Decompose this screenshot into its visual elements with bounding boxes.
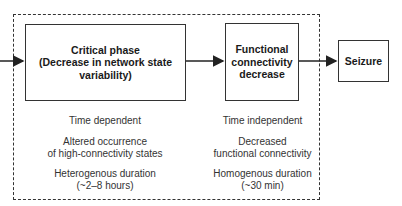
critical-phase-title: Critical phase	[39, 44, 172, 57]
note-text: Altered occurrence	[30, 136, 180, 148]
functional-connectivity-box: Functional connectivity decrease	[225, 23, 299, 101]
note-time-independent: Time independent	[205, 115, 320, 127]
functional-label-2: connectivity	[231, 56, 292, 69]
note-text: of high-connectivity states	[30, 148, 180, 160]
functional-label-1: Functional	[231, 43, 292, 56]
note-text: Homogenous duration	[205, 168, 320, 180]
note-time-dependent: Time dependent	[40, 115, 170, 127]
note-text: (~30 min)	[205, 180, 320, 192]
functional-label-3: decrease	[231, 68, 292, 81]
seizure-label: Seizure	[345, 55, 382, 68]
note-text: Time dependent	[40, 115, 170, 127]
note-text: Heterogenous duration	[30, 168, 180, 180]
note-altered-occurrence: Altered occurrence of high-connectivity …	[30, 136, 180, 160]
note-homogenous-duration: Homogenous duration (~30 min)	[205, 168, 320, 192]
critical-phase-box: Critical phase (Decrease in network stat…	[25, 24, 186, 101]
seizure-box: Seizure	[338, 40, 389, 82]
critical-phase-subtitle: (Decrease in network state	[39, 56, 172, 69]
critical-phase-subtitle-cont: variability)	[39, 69, 172, 82]
note-text: Time independent	[205, 115, 320, 127]
note-text: Decreased	[205, 136, 320, 148]
note-text: (~2–8 hours)	[30, 180, 180, 192]
note-heterogenous-duration: Heterogenous duration (~2–8 hours)	[30, 168, 180, 192]
note-text: functional connectivity	[205, 148, 320, 160]
note-decreased-connectivity: Decreased functional connectivity	[205, 136, 320, 160]
